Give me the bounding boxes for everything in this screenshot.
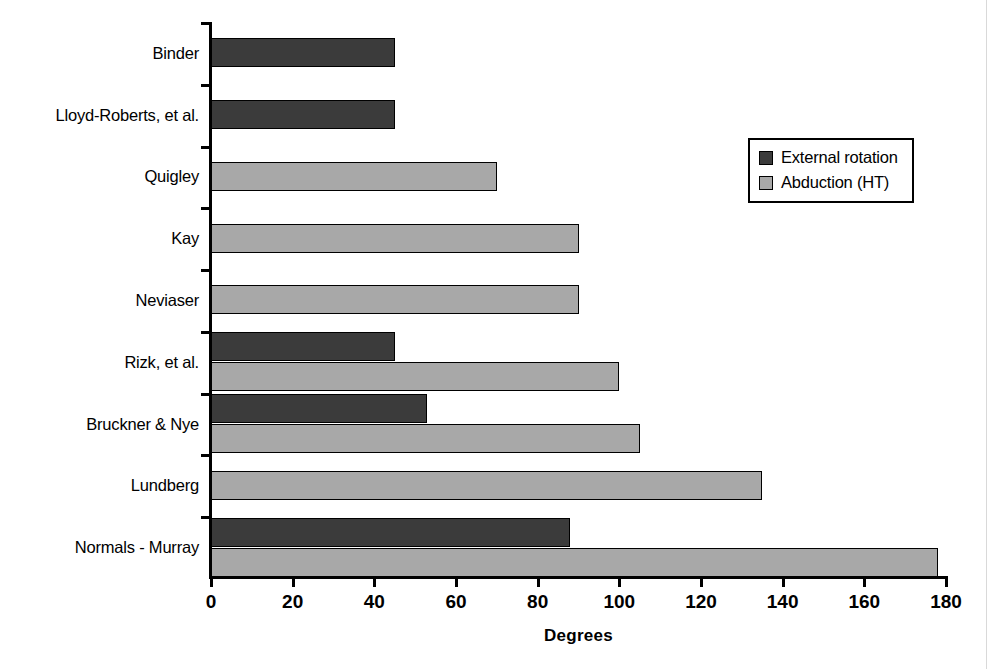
- category-label: Rizk, et al.: [124, 352, 199, 371]
- x-axis-tick: [863, 576, 866, 587]
- x-axis-tick-label: 100: [603, 591, 635, 613]
- bar-external-rotation: [211, 518, 570, 547]
- x-axis-tick: [455, 576, 458, 587]
- category-label: Neviaser: [135, 290, 199, 309]
- x-axis-tick-label: 120: [685, 591, 717, 613]
- chart-category-row: Lundberg: [211, 454, 946, 516]
- chart-category-row: Normals - Murray: [211, 516, 946, 578]
- legend-item-external-rotation: External rotation: [759, 145, 898, 170]
- y-axis-tick: [201, 84, 211, 87]
- y-axis-tick: [201, 516, 211, 519]
- chart-category-row: Binder: [211, 22, 946, 84]
- category-label: Bruckner & Nye: [86, 414, 199, 433]
- category-label: Lundberg: [131, 476, 199, 495]
- scan-edge-right: [986, 0, 987, 669]
- bar-abduction: [211, 424, 640, 453]
- chart-category-row: Rizk, et al.: [211, 331, 946, 393]
- bar-abduction: [211, 224, 579, 253]
- x-axis-tick: [210, 576, 213, 587]
- category-label: Quigley: [144, 167, 199, 186]
- legend-swatch-abduction: [759, 176, 773, 190]
- x-axis-tick-label: 140: [767, 591, 799, 613]
- legend-swatch-external-rotation: [759, 151, 773, 165]
- category-label: Lloyd-Roberts, et al.: [56, 105, 199, 124]
- x-axis-title: Degrees: [211, 626, 946, 646]
- y-axis-tick: [201, 146, 211, 149]
- y-axis-tick: [201, 22, 211, 25]
- bar-abduction: [211, 362, 619, 391]
- plot-area: BinderLloyd-Roberts, et al.QuigleyKayNev…: [211, 22, 946, 578]
- x-axis-tick: [945, 576, 948, 587]
- x-axis-tick-label: 60: [445, 591, 466, 613]
- x-axis-tick: [292, 576, 295, 587]
- category-label: Kay: [171, 229, 199, 248]
- category-label: Binder: [153, 43, 200, 62]
- x-axis-tick: [537, 576, 540, 587]
- x-axis-tick-label: 160: [848, 591, 880, 613]
- x-axis-tick-label: 20: [282, 591, 303, 613]
- bar-abduction: [211, 471, 762, 500]
- bar-external-rotation: [211, 332, 395, 361]
- x-axis-tick-label: 0: [206, 591, 217, 613]
- legend-item-abduction: Abduction (HT): [759, 170, 898, 195]
- y-axis-tick: [201, 331, 211, 334]
- y-axis-tick: [201, 454, 211, 457]
- bar-external-rotation: [211, 394, 427, 423]
- x-axis-tick-label: 180: [930, 591, 962, 613]
- chart-category-row: Bruckner & Nye: [211, 393, 946, 455]
- bar-chart: BinderLloyd-Roberts, et al.QuigleyKayNev…: [0, 0, 991, 669]
- chart-category-row: Neviaser: [211, 269, 946, 331]
- x-axis-tick-label: 80: [527, 591, 548, 613]
- legend-label-external-rotation: External rotation: [781, 148, 898, 167]
- y-axis-tick: [201, 269, 211, 272]
- category-label: Normals - Murray: [75, 538, 199, 557]
- x-axis-tick: [782, 576, 785, 587]
- x-axis-tick: [700, 576, 703, 587]
- chart-legend: External rotation Abduction (HT): [748, 138, 914, 203]
- bar-external-rotation: [211, 100, 395, 129]
- chart-category-row: Kay: [211, 207, 946, 269]
- x-axis-tick: [373, 576, 376, 587]
- bar-external-rotation: [211, 38, 395, 67]
- bar-abduction: [211, 548, 938, 577]
- x-axis-tick-label: 40: [364, 591, 385, 613]
- chart-category-row: Lloyd-Roberts, et al.: [211, 84, 946, 146]
- bar-abduction: [211, 162, 497, 191]
- legend-label-abduction: Abduction (HT): [781, 173, 889, 192]
- bar-abduction: [211, 285, 579, 314]
- y-axis-tick: [201, 393, 211, 396]
- x-axis-tick: [618, 576, 621, 587]
- y-axis-tick: [201, 207, 211, 210]
